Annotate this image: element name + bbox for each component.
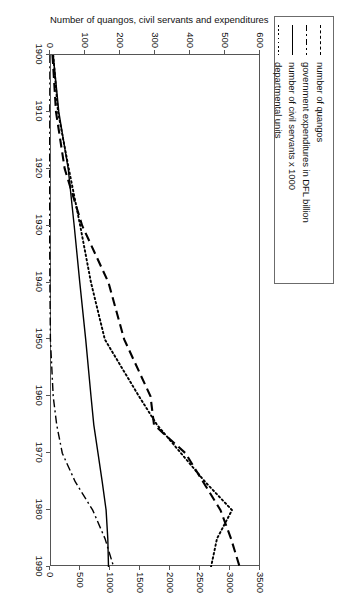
right-axis-tick: [139, 566, 140, 570]
x-axis-tick: [46, 566, 50, 567]
x-axis-tick-label: 1930: [34, 214, 45, 235]
dotted-line-key-icon: [274, 25, 283, 55]
right-axis-tick: [199, 566, 200, 570]
left-axis-tick-label: 300: [150, 32, 161, 48]
x-axis-tick-label: 1950: [34, 328, 45, 349]
right-axis-tick-label: 1000: [105, 572, 116, 593]
right-axis-tick-label: 3000: [225, 572, 236, 593]
x-axis-tick-label: 1910: [34, 100, 45, 121]
right-axis-tick: [229, 566, 230, 570]
right-axis-tick-label: 1500: [135, 572, 146, 593]
x-axis-tick-label: 1920: [34, 157, 45, 178]
x-axis-tick: [46, 54, 50, 55]
x-axis-tick: [46, 395, 50, 396]
legend-label: number of quangos: [315, 62, 326, 142]
x-axis-tick: [46, 338, 50, 339]
left-axis-title: Number of quangos, civil servants and ex…: [50, 14, 260, 25]
series-line-0: [53, 55, 240, 567]
left-axis-tick: [119, 50, 120, 54]
x-axis-tick-label: 1900: [34, 43, 45, 64]
dash-dot-line-key-icon: [302, 25, 311, 55]
plot-frame: [50, 54, 260, 566]
solid-line-key-icon: [288, 25, 297, 55]
figure-canvas: number of quangos government expenditure…: [0, 0, 342, 604]
x-axis-tick: [46, 111, 50, 112]
x-axis-tick: [46, 452, 50, 453]
legend-item-expenditures: government expenditures in DFL billion: [300, 25, 313, 275]
right-axis-tick-label: 3500: [255, 572, 266, 593]
x-axis-tick-label: 1960: [34, 385, 45, 406]
x-axis-tick-label: 1980: [34, 499, 45, 520]
left-axis-tick: [224, 50, 225, 54]
chart-plot-area: 0100200300400500600 05001000150020002500…: [50, 54, 260, 566]
legend-label: number of civil servants x 1000: [287, 62, 298, 190]
right-axis-tick: [259, 566, 260, 570]
left-axis-tick: [259, 50, 260, 54]
legend-item-quangos: number of quangos: [314, 25, 327, 275]
right-axis-tick: [169, 566, 170, 570]
left-axis-tick: [189, 50, 190, 54]
series-lines: [49, 55, 259, 567]
series-line-3: [53, 55, 232, 567]
dashed-line-key-icon: [316, 25, 325, 55]
x-axis-tick: [46, 509, 50, 510]
legend-label: departmental units: [273, 62, 284, 138]
right-axis-tick-label: 2000: [165, 572, 176, 593]
right-axis-tick-label: 500: [75, 572, 86, 588]
chart-legend: number of quangos government expenditure…: [274, 16, 334, 284]
left-axis-tick-label: 600: [255, 32, 266, 48]
left-axis-tick-label: 400: [185, 32, 196, 48]
left-axis-tick-label: 0: [45, 43, 56, 48]
x-axis-tick-label: 1940: [34, 271, 45, 292]
right-axis-tick: [109, 566, 110, 570]
left-axis-tick: [84, 50, 85, 54]
right-axis-tick-label: 2500: [195, 572, 206, 593]
legend-label: government expenditures in DFL billion: [301, 62, 312, 223]
x-axis-tick: [46, 168, 50, 169]
left-axis-tick-label: 200: [115, 32, 126, 48]
x-axis-tick-label: 1990: [34, 555, 45, 576]
x-axis-tick: [46, 282, 50, 283]
left-axis-tick-label: 500: [220, 32, 231, 48]
rotated-figure-wrapper: number of quangos government expenditure…: [0, 0, 342, 604]
x-axis-tick: [46, 225, 50, 226]
legend-item-civil-servants: number of civil servants x 1000: [286, 25, 299, 275]
x-axis-tick-label: 1970: [34, 442, 45, 463]
right-axis-tick: [79, 566, 80, 570]
left-axis-tick: [154, 50, 155, 54]
right-axis-tick-label: 0: [45, 572, 56, 577]
left-axis-tick-label: 100: [80, 32, 91, 48]
legend-item-departmental-units: departmental units: [272, 25, 285, 275]
